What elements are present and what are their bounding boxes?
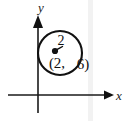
center-label-right: 6): [77, 56, 90, 73]
circle-coordinate-figure: 2 (2, 6) y x: [0, 0, 124, 121]
y-axis-arrowhead: [33, 15, 43, 28]
figure-canvas: 2 (2, 6) y x: [0, 0, 124, 121]
x-axis-label: x: [115, 88, 122, 103]
x-axis-arrowhead: [104, 91, 114, 100]
center-label-left: (2,: [49, 55, 65, 72]
y-axis-label: y: [36, 0, 44, 15]
radius-label: 2: [58, 33, 65, 48]
